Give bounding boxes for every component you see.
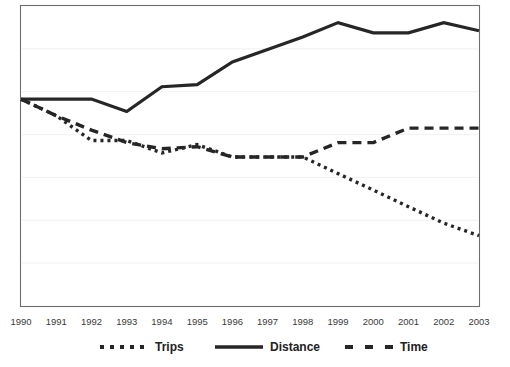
legend-label-time: Time: [400, 340, 428, 354]
x-tick-label: 1996: [222, 316, 243, 327]
x-tick-label: 1997: [257, 316, 278, 327]
x-tick-label: 1992: [81, 316, 102, 327]
x-axis-tick-labels: 1990199119921993199419951996199719981999…: [10, 316, 489, 327]
x-tick-label: 2001: [398, 316, 419, 327]
chart-legend: TripsDistanceTime: [100, 340, 428, 354]
x-tick-label: 2000: [363, 316, 384, 327]
x-tick-label: 1998: [292, 316, 313, 327]
x-tick-label: 1999: [328, 316, 349, 327]
x-tick-label: 1990: [10, 316, 31, 327]
x-tick-label: 1995: [187, 316, 208, 327]
x-tick-label: 1994: [151, 316, 172, 327]
x-tick-label: 1991: [46, 316, 67, 327]
legend-label-trips: Trips: [155, 340, 184, 354]
line-chart: 1990199119921993199419951996199719981999…: [0, 0, 510, 367]
chart-canvas: 1990199119921993199419951996199719981999…: [0, 0, 510, 367]
x-tick-label: 2002: [433, 316, 454, 327]
legend-label-distance: Distance: [270, 340, 320, 354]
x-tick-label: 2003: [468, 316, 489, 327]
x-tick-label: 1993: [116, 316, 137, 327]
